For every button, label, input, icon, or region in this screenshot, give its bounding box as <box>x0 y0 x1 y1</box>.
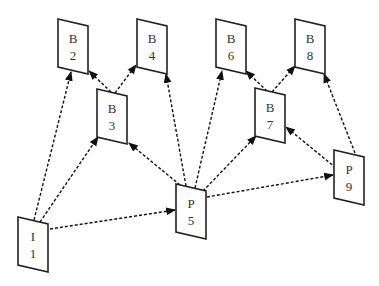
frame-node-p9: P9 <box>334 150 364 205</box>
frame-shape <box>295 19 325 74</box>
frame-node-b4: B4 <box>137 19 167 74</box>
frame-type-label: B <box>148 31 157 46</box>
arrow-i1-to-b3 <box>40 137 98 222</box>
frame-type-label: B <box>306 31 315 46</box>
frame-type-label: P <box>345 162 352 177</box>
arrow-b7-to-b8 <box>272 66 295 92</box>
frame-node-b2: B2 <box>58 19 88 74</box>
arrow-i1-to-p5 <box>50 210 175 229</box>
arrow-p5-to-b3 <box>129 143 180 185</box>
arrow-p5-to-b4 <box>166 74 186 186</box>
frame-node-b8: B8 <box>295 19 325 74</box>
nodes: I1B2B3B4P5B6B7B8P9 <box>18 19 364 272</box>
frame-type-label: B <box>69 31 78 46</box>
arrow-p9-to-b7 <box>286 127 336 168</box>
frame-shape <box>334 150 364 205</box>
frame-shape <box>216 19 246 74</box>
frame-node-b6: B6 <box>216 19 246 74</box>
frame-number-label: 7 <box>267 117 274 132</box>
frame-number-label: 8 <box>307 48 314 63</box>
arrow-p5-to-b6 <box>195 71 222 188</box>
frame-shape <box>97 89 127 144</box>
frame-shape <box>137 19 167 74</box>
arrow-p9-to-b8 <box>324 74 355 153</box>
frame-shape <box>18 217 48 272</box>
frame-number-label: 3 <box>109 118 116 133</box>
frame-type-label: I <box>31 229 35 244</box>
frame-dependency-diagram: I1B2B3B4P5B6B7B8P9 <box>0 0 379 286</box>
frame-type-label: P <box>187 196 194 211</box>
frame-type-label: B <box>108 101 117 116</box>
arrow-b3-to-b2 <box>89 71 111 92</box>
frame-shape <box>58 19 88 74</box>
frame-node-i1: I1 <box>18 217 48 272</box>
frame-type-label: B <box>266 100 275 115</box>
frame-node-p5: P5 <box>176 184 206 239</box>
frame-number-label: 6 <box>228 48 235 63</box>
frame-shape <box>176 184 206 239</box>
arrow-p5-to-b7 <box>203 136 256 191</box>
arrow-i1-to-b2 <box>34 72 71 220</box>
frame-number-label: 5 <box>188 213 195 228</box>
frame-number-label: 9 <box>346 179 353 194</box>
frame-number-label: 1 <box>30 246 37 261</box>
frame-number-label: 4 <box>149 48 156 63</box>
arrow-b3-to-b4 <box>115 65 136 93</box>
frame-shape <box>255 88 285 143</box>
frame-number-label: 2 <box>70 48 77 63</box>
frame-type-label: B <box>227 31 236 46</box>
frame-node-b7: B7 <box>255 88 285 143</box>
arrow-p5-to-p9 <box>207 175 333 197</box>
frame-node-b3: B3 <box>97 89 127 144</box>
